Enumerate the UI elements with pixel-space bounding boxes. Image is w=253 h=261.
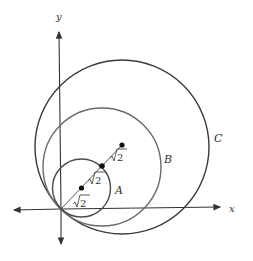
x-axis xyxy=(14,207,220,210)
svg-text:2: 2 xyxy=(80,198,86,209)
x-axis-label: x xyxy=(229,203,235,214)
sqrt2-label-1: 2 xyxy=(73,195,90,209)
center-line xyxy=(61,145,122,209)
circles-diagram: x y A B C 2 2 2 xyxy=(0,0,253,261)
sqrt2-label-3: 2 xyxy=(110,149,127,163)
circle-c-label: C xyxy=(214,132,223,145)
svg-text:2: 2 xyxy=(117,152,123,163)
circle-a-label: A xyxy=(114,184,123,197)
y-axis xyxy=(59,32,61,244)
sqrt2-label-2: 2 xyxy=(88,172,105,186)
center-dot-c xyxy=(119,142,124,147)
svg-text:2: 2 xyxy=(95,175,101,186)
tangent-dot xyxy=(99,163,105,169)
center-dot-a xyxy=(79,185,84,190)
y-axis-label: y xyxy=(55,11,62,22)
circle-b-label: B xyxy=(163,153,172,166)
